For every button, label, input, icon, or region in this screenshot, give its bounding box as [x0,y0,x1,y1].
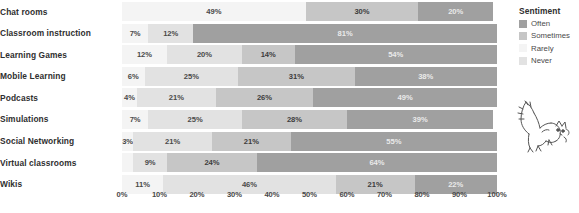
bar-segment-rarely: 49% [122,2,306,21]
bar-segment-sometimes: 26% [216,88,314,107]
chart-plot-area: Chat rooms49%30%20%Classroom instruction… [0,0,497,213]
bar-segment-never: 25% [148,110,242,129]
bar-segment-never: 9% [133,153,167,172]
x-tick-label: 70% [377,190,392,199]
bar-segment-rarely: 6% [122,67,145,86]
legend-item[interactable]: Sometimes [519,31,579,40]
category-label: Virtual classrooms [0,158,122,168]
bar-row: Mobile Learning6%25%31%38% [0,67,497,86]
bar-segment-often: 54% [295,45,498,64]
x-tick-label: 100% [487,190,506,199]
legend-swatch-never [519,57,527,65]
x-tick-label: 30% [227,190,242,199]
x-tick-label: 0% [117,190,128,199]
category-label: Chat rooms [0,7,122,17]
bar-segment-often: 20% [418,2,493,21]
stacked-bar: 7%12%81% [122,24,497,43]
stacked-bar: 9%24%64% [122,153,497,172]
x-tick-label: 40% [264,190,279,199]
legend-label: Sometimes [531,31,570,40]
bar-segment-often: 81% [193,24,497,43]
bar-segment-rarely: 4% [122,88,137,107]
stacked-bar: 3%21%21%55% [122,132,497,151]
bar-segment-often: 39% [347,110,493,129]
category-label: Mobile Learning [0,71,122,81]
bar-segment-never: 12% [148,24,193,43]
legend-swatch-rarely [519,44,527,52]
category-label: Simulations [0,114,122,124]
category-label: Social Networking [0,136,122,146]
bar-row: Classroom instruction7%12%81% [0,24,497,43]
bar-row: Simulations7%25%28%39% [0,110,497,129]
stacked-bar: 12%20%14%54% [122,45,497,64]
bar-segment-sometimes: 24% [167,153,257,172]
bar-segment-rarely: 3% [122,132,133,151]
legend-item[interactable]: Often [519,19,579,28]
bar-segment-never: 20% [167,45,242,64]
bar-rows: Chat rooms49%30%20%Classroom instruction… [0,2,497,196]
x-tick-label: 60% [339,190,354,199]
bar-segment-sometimes: 31% [238,67,354,86]
legend-label: Rarely [531,44,554,53]
legend-label: Often [531,19,550,28]
category-label: Learning Games [0,50,122,60]
legend-item[interactable]: Never [519,56,579,65]
bar-row: Social Networking3%21%21%55% [0,132,497,151]
bar-segment-never: 21% [137,88,216,107]
bar-segment-never: 21% [133,132,212,151]
bar-segment-sometimes: 28% [242,110,347,129]
legend-item[interactable]: Rarely [519,44,579,53]
cat-line-drawing-icon [506,96,572,158]
x-axis: 0%10%20%30%40%50%60%70%80%90%100% [122,190,497,206]
legend-title: Sentiment [519,6,579,16]
bar-segment-sometimes: 21% [212,132,291,151]
legend-label: Never [531,56,552,65]
bar-segment-often: 49% [313,88,497,107]
bar-segment-rarely [122,153,133,172]
legend-swatch-often [519,20,527,28]
bar-segment-rarely: 12% [122,45,167,64]
x-tick-label: 10% [152,190,167,199]
bar-segment-often: 38% [355,67,498,86]
stacked-bar: 6%25%31%38% [122,67,497,86]
legend: Sentiment OftenSometimesRarelyNever [519,6,579,69]
bar-segment-rarely: 7% [122,24,148,43]
bar-row: Learning Games12%20%14%54% [0,45,497,64]
x-tick-label: 80% [414,190,429,199]
stacked-bar: 49%30%20% [122,2,497,21]
x-tick-label: 50% [302,190,317,199]
category-label: Wikis [0,179,122,189]
chart-root: Chat rooms49%30%20%Classroom instruction… [0,0,579,213]
x-tick-label: 20% [189,190,204,199]
bar-row: Virtual classrooms9%24%64% [0,153,497,172]
bar-segment-rarely: 7% [122,110,148,129]
stacked-bar: 7%25%28%39% [122,110,497,129]
stacked-bar: 4%21%26%49% [122,88,497,107]
category-label: Podcasts [0,93,122,103]
bar-segment-often: 55% [291,132,497,151]
bar-segment-never: 25% [145,67,239,86]
bar-row: Podcasts4%21%26%49% [0,88,497,107]
category-label: Classroom instruction [0,28,122,38]
bar-row: Chat rooms49%30%20% [0,2,497,21]
bar-segment-sometimes: 30% [306,2,419,21]
legend-swatch-sometimes [519,32,527,40]
bar-segment-often: 64% [257,153,497,172]
bar-segment-sometimes: 14% [242,45,295,64]
legend-items: OftenSometimesRarelyNever [519,19,579,65]
x-tick-label: 90% [452,190,467,199]
